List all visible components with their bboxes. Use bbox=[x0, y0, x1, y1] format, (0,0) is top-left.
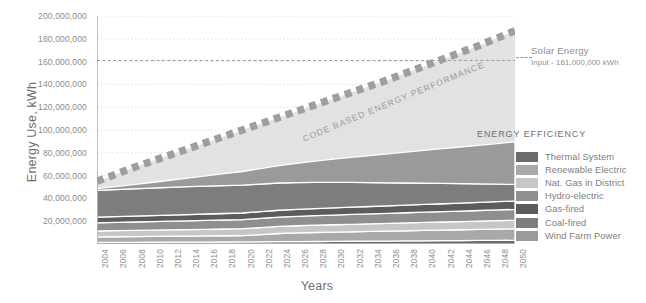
x-tick-label: 2016 bbox=[209, 249, 219, 268]
y-tick-label: 120,000,000 bbox=[38, 102, 87, 112]
legend-label: Nat. Gas in District bbox=[545, 178, 625, 188]
y-tick-label: 60,000,000 bbox=[43, 171, 87, 181]
x-tick-label: 2014 bbox=[191, 249, 201, 268]
x-tick-label: 2010 bbox=[155, 249, 165, 268]
legend-label: Thermal System bbox=[545, 152, 614, 162]
legend-label: Wind Farm Power bbox=[545, 231, 621, 241]
solar-energy-input: Input - 161,000,000 kWh bbox=[531, 57, 643, 68]
chart-root: Energy Use, kWh 200,000,000180,000,00016… bbox=[0, 0, 646, 303]
x-tick-label: 2038 bbox=[409, 249, 419, 268]
x-tick-label: 2028 bbox=[318, 249, 328, 268]
x-tick-label: 2046 bbox=[482, 249, 492, 268]
legend-item[interactable]: Renewable Electric bbox=[516, 163, 644, 176]
y-tick-label: 20,000,000 bbox=[43, 216, 87, 226]
legend: Thermal SystemRenewable ElectricNat. Gas… bbox=[516, 150, 644, 242]
x-tick-label: 2018 bbox=[227, 249, 237, 268]
legend-label: Renewable Electric bbox=[545, 165, 626, 175]
x-tick-label: 2026 bbox=[300, 249, 310, 268]
chart-svg bbox=[97, 16, 515, 244]
legend-item[interactable]: Hydro-electric bbox=[516, 190, 644, 203]
energy-efficiency-label: ENERGY EFFICIENCY bbox=[477, 129, 586, 139]
x-tick-label: 2048 bbox=[500, 249, 510, 268]
legend-swatch bbox=[516, 165, 538, 175]
legend-swatch bbox=[516, 191, 538, 201]
legend-swatch bbox=[516, 218, 538, 228]
solar-leader-line bbox=[516, 57, 532, 59]
plot-area: CODE BASED ENERGY PERFORMANCE ENERGY EFF… bbox=[97, 16, 515, 244]
legend-swatch bbox=[516, 152, 538, 162]
solar-energy-title: Solar Energy bbox=[531, 45, 643, 57]
x-tick-label: 2004 bbox=[100, 249, 110, 268]
legend-swatch bbox=[516, 204, 538, 214]
legend-item[interactable]: Thermal System bbox=[516, 150, 644, 163]
legend-item[interactable]: Nat. Gas in District bbox=[516, 176, 644, 189]
x-tick-label: 2006 bbox=[118, 249, 128, 268]
y-axis-tick-labels: 200,000,000180,000,000160,000,000140,000… bbox=[0, 16, 91, 244]
legend-item[interactable]: Wind Farm Power bbox=[516, 229, 644, 242]
legend-swatch bbox=[516, 178, 538, 188]
x-tick-label: 2008 bbox=[137, 249, 147, 268]
x-tick-label: 2036 bbox=[391, 249, 401, 268]
x-tick-label: 2030 bbox=[336, 249, 346, 268]
y-tick-label: 80,000,000 bbox=[43, 148, 87, 158]
legend-item[interactable]: Coal-fired bbox=[516, 216, 644, 229]
x-tick-label: 2034 bbox=[373, 249, 383, 268]
y-tick-label: 40,000,000 bbox=[43, 193, 87, 203]
x-tick-label: 2050 bbox=[518, 249, 528, 268]
legend-swatch bbox=[516, 231, 538, 241]
legend-item[interactable]: Gas-fired bbox=[516, 203, 644, 216]
y-tick-label: 140,000,000 bbox=[38, 79, 87, 89]
solar-energy-annotation: Solar Energy Input - 161,000,000 kWh bbox=[531, 45, 643, 68]
x-tick-label: 2020 bbox=[246, 249, 256, 268]
legend-label: Hydro-electric bbox=[545, 191, 604, 201]
x-axis-title: Years bbox=[247, 279, 387, 293]
x-tick-label: 2012 bbox=[173, 249, 183, 268]
y-tick-label: 180,000,000 bbox=[38, 34, 87, 44]
legend-label: Gas-fired bbox=[545, 204, 584, 214]
x-tick-label: 2024 bbox=[282, 249, 292, 268]
x-tick-label: 2032 bbox=[355, 249, 365, 268]
x-tick-label: 2040 bbox=[427, 249, 437, 268]
legend-label: Coal-fired bbox=[545, 218, 586, 228]
y-tick-label: 200,000,000 bbox=[38, 11, 87, 21]
x-tick-label: 2022 bbox=[264, 249, 274, 268]
y-tick-label: 100,000,000 bbox=[38, 125, 87, 135]
x-tick-label: 2042 bbox=[446, 249, 456, 268]
y-tick-label: 160,000,000 bbox=[38, 57, 87, 67]
x-tick-label: 2044 bbox=[464, 249, 474, 268]
